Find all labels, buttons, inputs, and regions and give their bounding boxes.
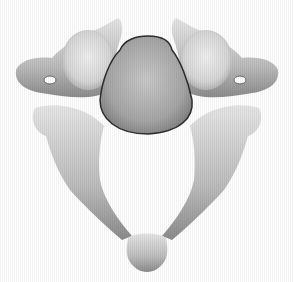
vertebra-svg [0, 0, 294, 282]
vertebra-illustration [0, 0, 294, 282]
